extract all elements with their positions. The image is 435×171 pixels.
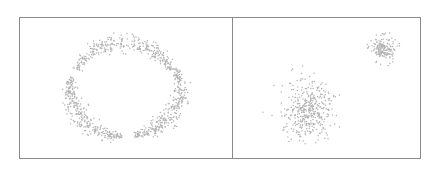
data-point xyxy=(173,120,175,122)
data-point xyxy=(321,117,323,119)
data-point xyxy=(160,52,162,54)
data-point xyxy=(81,119,83,121)
data-point xyxy=(81,98,83,100)
data-point xyxy=(310,132,312,134)
data-point xyxy=(177,92,179,94)
data-point xyxy=(316,121,318,123)
data-point xyxy=(389,44,391,46)
data-point xyxy=(300,119,302,121)
data-point xyxy=(79,65,81,67)
data-point xyxy=(190,82,192,84)
scatter-panel-arcs xyxy=(62,32,191,143)
data-point xyxy=(317,135,319,137)
data-point xyxy=(149,50,151,52)
data-point xyxy=(68,95,70,97)
data-point xyxy=(75,109,77,111)
data-point xyxy=(339,126,341,128)
data-point xyxy=(75,102,77,104)
data-point xyxy=(179,71,181,73)
data-point xyxy=(167,109,169,111)
data-point xyxy=(106,128,108,130)
data-point xyxy=(377,46,379,48)
data-point xyxy=(82,70,84,72)
data-point xyxy=(142,43,144,45)
data-point xyxy=(391,37,393,39)
data-point xyxy=(177,81,179,83)
data-point xyxy=(378,48,380,50)
data-point xyxy=(292,109,294,111)
data-point xyxy=(101,46,103,48)
data-point xyxy=(120,134,122,136)
data-point xyxy=(367,48,369,50)
data-point xyxy=(144,134,146,136)
data-point xyxy=(168,103,170,105)
data-point xyxy=(120,133,122,135)
data-point xyxy=(77,68,79,70)
data-point xyxy=(176,76,178,78)
data-point xyxy=(62,89,64,91)
data-point xyxy=(324,118,326,120)
data-point xyxy=(93,40,95,42)
data-point xyxy=(313,106,315,108)
data-point xyxy=(299,96,301,98)
data-point xyxy=(72,83,74,85)
data-point xyxy=(304,143,306,145)
data-point xyxy=(68,108,70,110)
data-point xyxy=(392,41,394,43)
data-point xyxy=(179,101,181,103)
data-point xyxy=(309,102,311,104)
data-point xyxy=(73,92,75,94)
data-point xyxy=(301,89,303,91)
data-point xyxy=(325,100,327,102)
data-point xyxy=(88,54,90,56)
data-point xyxy=(167,50,169,52)
data-point xyxy=(385,52,387,54)
data-point xyxy=(71,94,73,96)
data-point xyxy=(298,108,300,110)
data-point xyxy=(292,105,294,107)
data-point xyxy=(289,83,291,85)
data-point xyxy=(96,45,98,47)
data-point xyxy=(322,108,324,110)
data-point xyxy=(92,52,94,54)
data-point xyxy=(320,96,322,98)
data-point xyxy=(304,132,306,134)
data-point xyxy=(313,127,315,128)
data-point xyxy=(140,132,142,134)
data-point xyxy=(319,133,321,135)
data-point xyxy=(156,121,158,123)
data-point xyxy=(288,141,290,143)
data-point xyxy=(80,103,82,105)
data-point xyxy=(317,112,319,114)
data-point xyxy=(389,48,391,50)
data-point xyxy=(119,137,121,139)
data-point xyxy=(87,43,89,45)
data-point xyxy=(155,52,157,54)
data-point xyxy=(308,107,310,109)
data-point xyxy=(77,113,79,115)
data-point xyxy=(172,68,174,70)
data-point xyxy=(131,44,133,46)
data-point xyxy=(73,120,75,122)
data-point xyxy=(125,53,127,55)
data-point xyxy=(316,129,318,131)
data-point xyxy=(317,96,319,98)
data-point xyxy=(77,67,79,69)
data-point xyxy=(163,55,165,57)
data-point xyxy=(67,104,69,106)
data-point xyxy=(135,36,137,38)
data-point xyxy=(151,54,153,56)
data-point xyxy=(390,49,392,51)
data-point xyxy=(123,45,125,47)
data-point xyxy=(151,124,153,126)
data-point xyxy=(137,49,139,51)
data-point xyxy=(375,62,377,64)
data-point xyxy=(110,138,112,140)
data-point xyxy=(66,113,68,115)
data-point xyxy=(178,117,180,119)
data-point xyxy=(333,95,335,97)
data-point xyxy=(84,121,86,123)
data-point xyxy=(384,52,386,54)
data-point xyxy=(380,41,382,43)
data-point xyxy=(155,54,157,56)
